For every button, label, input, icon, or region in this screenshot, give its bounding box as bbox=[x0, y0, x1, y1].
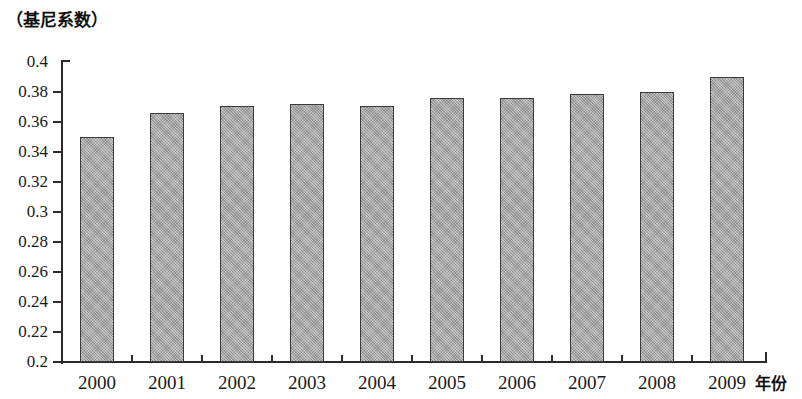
y-axis-tick-label: 0.26 bbox=[18, 263, 48, 280]
x-axis-tick-label: 2006 bbox=[482, 372, 552, 393]
bar bbox=[710, 77, 744, 362]
y-axis-tick bbox=[53, 301, 62, 303]
x-axis-tick bbox=[481, 355, 483, 362]
y-axis-tick bbox=[53, 151, 62, 153]
y-axis-tick-label: 0.4 bbox=[27, 53, 48, 70]
y-axis-tick bbox=[53, 241, 62, 243]
x-axis-tick-label: 2009 bbox=[692, 372, 762, 393]
x-axis-title: 年份 bbox=[755, 374, 787, 393]
y-axis-tick bbox=[53, 361, 62, 363]
y-axis-top-cap bbox=[61, 60, 70, 62]
x-axis-tick-label: 2002 bbox=[202, 372, 272, 393]
y-axis-tick bbox=[53, 121, 62, 123]
x-axis-tick-label: 2008 bbox=[622, 372, 692, 393]
y-axis-tick bbox=[53, 181, 62, 183]
y-axis-tick-label: 0.32 bbox=[18, 173, 48, 190]
y-axis-tick-label: 0.28 bbox=[18, 233, 48, 250]
x-axis-tick-label: 2001 bbox=[132, 372, 202, 393]
y-axis-tick-label: 0.3 bbox=[27, 203, 48, 220]
bar bbox=[570, 94, 604, 363]
x-axis-tick-label: 2004 bbox=[342, 372, 412, 393]
x-axis-tick bbox=[691, 355, 693, 362]
bar bbox=[150, 113, 184, 362]
y-axis-tick-label: 0.22 bbox=[18, 323, 48, 340]
bar bbox=[430, 98, 464, 362]
bar bbox=[220, 106, 254, 363]
bar bbox=[360, 106, 394, 363]
y-axis-tick bbox=[53, 331, 62, 333]
x-axis-tick bbox=[341, 355, 343, 362]
x-axis-tick-label: 2003 bbox=[272, 372, 342, 393]
x-axis-tick-label: 2000 bbox=[62, 372, 132, 393]
x-axis-tick-label: 2005 bbox=[412, 372, 482, 393]
x-axis-right-cap bbox=[765, 352, 767, 363]
y-axis-tick-label: 0.2 bbox=[27, 353, 48, 370]
y-axis-unit-caption: （基尼系数） bbox=[6, 6, 108, 31]
x-axis-tick bbox=[271, 355, 273, 362]
bar bbox=[80, 137, 114, 362]
bar bbox=[500, 98, 534, 362]
y-axis-tick-label: 0.38 bbox=[18, 83, 48, 100]
y-axis-tick-label: 0.24 bbox=[18, 293, 48, 310]
gini-coefficient-bar-chart: （基尼系数） 0.40.380.360.340.320.30.280.260.2… bbox=[0, 0, 802, 399]
x-axis-tick bbox=[621, 355, 623, 362]
bar bbox=[640, 92, 674, 362]
x-axis-tick-label: 2007 bbox=[552, 372, 622, 393]
y-axis-tick-label: 0.36 bbox=[18, 113, 48, 130]
y-axis-tick bbox=[53, 91, 62, 93]
y-axis-tick bbox=[53, 271, 62, 273]
y-axis-tick bbox=[53, 211, 62, 213]
x-axis-tick bbox=[551, 355, 553, 362]
x-axis-tick bbox=[411, 355, 413, 362]
x-axis-tick bbox=[131, 355, 133, 362]
y-axis-tick-label: 0.34 bbox=[18, 143, 48, 160]
bar bbox=[290, 104, 324, 362]
x-axis-tick bbox=[201, 355, 203, 362]
